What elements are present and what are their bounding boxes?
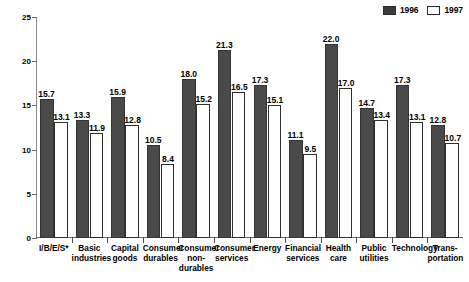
- x-axis-label: Financial services: [285, 243, 321, 263]
- bar-1997[interactable]: 11.9: [90, 133, 104, 238]
- bar-value-label: 12.8: [124, 116, 141, 125]
- y-axis-tick-label: 20: [22, 57, 31, 66]
- bar-value-label: 10.7: [445, 134, 462, 143]
- bar-value-label: 17.0: [338, 79, 355, 88]
- y-axis-tick: [32, 194, 37, 195]
- bar-value-label: 11.1: [288, 131, 304, 140]
- bar-1997[interactable]: 12.8: [125, 125, 139, 238]
- y-axis-tick: [32, 105, 37, 106]
- legend-label-1997: 1997: [444, 6, 463, 15]
- y-axis-tick: [32, 150, 37, 151]
- bar-value-label: 12.8: [430, 116, 447, 125]
- bar-1997[interactable]: 13.1: [54, 122, 68, 238]
- bar-group: 13.311.9: [76, 17, 104, 238]
- bar-chart: 1996 1997 051015202515.713.113.311.915.9…: [0, 0, 469, 282]
- y-axis-tick: [32, 61, 37, 62]
- bar-value-label: 15.2: [196, 95, 213, 104]
- bar-value-label: 17.3: [252, 76, 269, 85]
- bar-1996[interactable]: 14.7: [360, 108, 374, 238]
- bar-value-label: 15.1: [267, 96, 284, 105]
- bar-value-label: 18.0: [181, 70, 198, 79]
- bar-value-label: 21.3: [216, 41, 233, 50]
- bar-1997[interactable]: 15.2: [196, 104, 210, 238]
- bar-value-label: 10.5: [145, 136, 162, 145]
- y-axis-tick: [32, 238, 37, 239]
- bar-1997[interactable]: 9.5: [303, 154, 317, 238]
- plot-area: 051015202515.713.113.311.915.912.810.58.…: [36, 17, 463, 238]
- bar-value-label: 14.7: [358, 99, 375, 108]
- bar-group: 15.912.8: [111, 17, 139, 238]
- bar-value-label: 13.1: [409, 113, 426, 122]
- y-axis-tick: [32, 17, 37, 18]
- x-axis-label: I/B/E/S*: [36, 243, 72, 253]
- bar-group: 17.315.1: [254, 17, 282, 238]
- x-axis-label: Trans- portation: [427, 243, 463, 263]
- legend-entry-1997: 1997: [427, 6, 463, 15]
- bar-1996[interactable]: 12.8: [431, 125, 445, 238]
- x-axis-label: Consumer services: [214, 243, 250, 263]
- bar-1996[interactable]: 17.3: [396, 85, 410, 238]
- y-axis-tick-label: 10: [22, 145, 31, 154]
- bar-1996[interactable]: 15.9: [111, 97, 125, 238]
- legend-entry-1996: 1996: [383, 6, 419, 15]
- bar-group: 22.017.0: [325, 17, 353, 238]
- bar-value-label: 11.9: [89, 124, 105, 133]
- bar-1997[interactable]: 10.7: [445, 143, 459, 238]
- bar-value-label: 9.5: [304, 145, 316, 154]
- bar-group: 18.015.2: [182, 17, 210, 238]
- bar-group: 12.810.7: [431, 17, 459, 238]
- y-axis-tick-label: 15: [22, 101, 31, 110]
- x-axis-category-labels: I/B/E/S*Basic industriesCapital goodsCon…: [36, 243, 463, 282]
- x-axis-label: Health care: [321, 243, 357, 263]
- bar-1997[interactable]: 13.1: [410, 122, 424, 238]
- bar-1996[interactable]: 17.3: [254, 85, 268, 238]
- y-axis-tick-label: 25: [22, 13, 31, 22]
- bar-1997[interactable]: 17.0: [339, 88, 353, 238]
- x-axis-label: Basic industries: [72, 243, 108, 263]
- bar-1997[interactable]: 13.4: [374, 120, 388, 238]
- x-axis-label: Public utilities: [356, 243, 392, 263]
- bar-value-label: 17.3: [394, 76, 411, 85]
- x-axis-label: Technology: [392, 243, 428, 253]
- bar-group: 17.313.1: [396, 17, 424, 238]
- y-axis-tick-label: 0: [27, 234, 31, 243]
- legend-swatch-1996: [383, 6, 396, 15]
- bar-1996[interactable]: 22.0: [325, 44, 339, 238]
- y-axis-tick-label: 5: [27, 189, 31, 198]
- bar-group: 10.58.4: [147, 17, 175, 238]
- legend-swatch-1997: [427, 6, 440, 15]
- bar-value-label: 16.5: [231, 83, 248, 92]
- x-axis-label: Consumer non- durables: [178, 243, 214, 273]
- chart-legend: 1996 1997: [383, 4, 463, 16]
- bar-1996[interactable]: 21.3: [218, 50, 232, 238]
- legend-label-1996: 1996: [400, 6, 419, 15]
- bar-1996[interactable]: 15.7: [40, 99, 54, 238]
- bar-1996[interactable]: 11.1: [289, 140, 303, 238]
- x-axis-label: Capital goods: [107, 243, 143, 263]
- x-axis-label: Energy: [250, 243, 286, 253]
- bar-value-label: 13.1: [53, 113, 70, 122]
- bar-value-label: 15.9: [109, 88, 126, 97]
- bar-group: 15.713.1: [40, 17, 68, 238]
- bar-value-label: 15.7: [38, 90, 55, 99]
- y-axis-line: [36, 17, 37, 238]
- bar-value-label: 8.4: [162, 155, 174, 164]
- bar-1997[interactable]: 16.5: [232, 92, 246, 238]
- bar-1996[interactable]: 10.5: [147, 145, 161, 238]
- bar-1997[interactable]: 15.1: [268, 105, 282, 238]
- bar-value-label: 13.4: [373, 111, 390, 120]
- bar-group: 11.19.5: [289, 17, 317, 238]
- x-axis-label: Consumer durables: [143, 243, 179, 263]
- bar-1996[interactable]: 13.3: [76, 120, 90, 238]
- bar-value-label: 22.0: [323, 35, 340, 44]
- bar-value-label: 13.3: [74, 111, 91, 120]
- bar-1996[interactable]: 18.0: [182, 79, 196, 238]
- bar-group: 14.713.4: [360, 17, 388, 238]
- bar-1997[interactable]: 8.4: [161, 164, 175, 238]
- bar-group: 21.316.5: [218, 17, 246, 238]
